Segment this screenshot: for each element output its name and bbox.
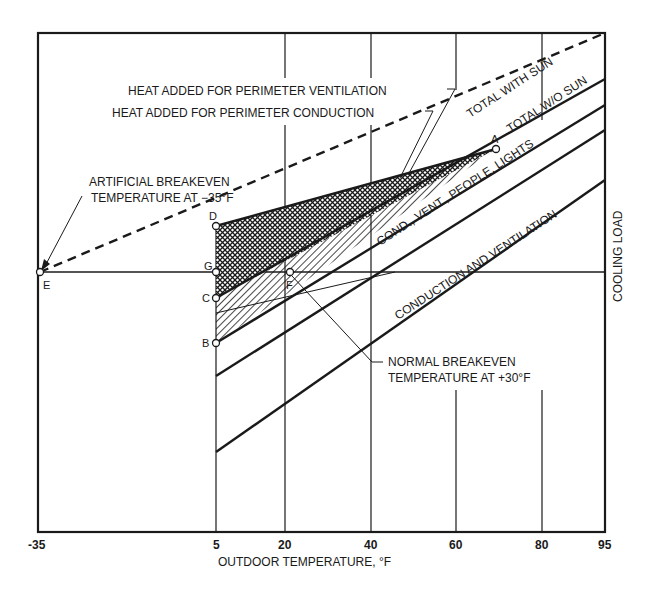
label-heat-conduction: HEAT ADDED FOR PERIMETER CONDUCTION [112, 106, 374, 120]
label-normal-1: NORMAL BREAKEVEN [388, 355, 516, 369]
x-tick-5: 5 [213, 538, 220, 552]
point-label-g: G [204, 260, 213, 272]
point-label-d: D [209, 210, 217, 222]
point-label-b: B [202, 337, 209, 349]
cooling-load-diagram: A D G C B E F F HEAT ADDED FOR PERIMETER… [0, 0, 657, 603]
point-a [493, 146, 500, 153]
point-label-c: C [202, 292, 210, 304]
point-label-f-visible: F [286, 279, 293, 291]
x-tick-40: 40 [364, 538, 378, 552]
y-axis-label: COOLING LOAD [611, 210, 625, 302]
point-g [213, 269, 220, 276]
point-label-a: A [491, 133, 499, 145]
x-axis-label: OUTDOOR TEMPERATURE, °F [218, 555, 391, 569]
label-heat-ventilation: HEAT ADDED FOR PERIMETER VENTILATION [128, 84, 387, 98]
x-tick-80: 80 [535, 538, 549, 552]
x-tick-20: 20 [278, 538, 292, 552]
x-tick--35: -35 [28, 538, 46, 552]
point-e [37, 269, 44, 276]
label-artificial-2: TEMPERATURE AT −35°F [91, 191, 234, 205]
point-f [287, 269, 294, 276]
label-artificial-1: ARTIFICIAL BREAKEVEN [89, 175, 230, 189]
point-d [213, 223, 220, 230]
point-c [213, 295, 220, 302]
x-tick-60: 60 [449, 538, 463, 552]
label-normal-2: TEMPERATURE AT +30°F [388, 371, 531, 385]
x-tick-95: 95 [598, 538, 612, 552]
point-b [213, 340, 220, 347]
point-label-e: E [43, 279, 50, 291]
